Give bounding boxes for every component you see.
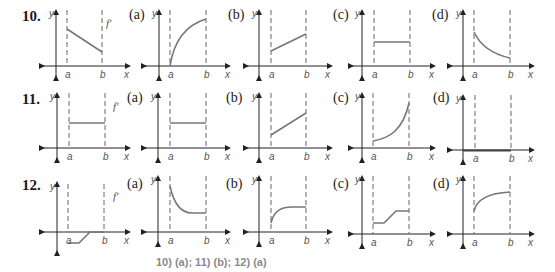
svg-text:x: x — [224, 235, 231, 246]
svg-text:x: x — [224, 151, 231, 162]
svg-text:x: x — [428, 237, 435, 248]
svg-text:a: a — [372, 69, 378, 80]
problem-number: 12. — [22, 177, 41, 193]
svg-text:(c): (c) — [333, 7, 349, 23]
svg-text:(b): (b) — [228, 7, 245, 23]
svg-text:(a): (a) — [127, 90, 143, 106]
svg-text:b: b — [304, 235, 310, 246]
svg-text:a: a — [67, 151, 73, 162]
svg-text:(a): (a) — [129, 7, 145, 23]
svg-text:(a): (a) — [127, 176, 143, 192]
svg-text:x: x — [324, 69, 331, 80]
svg-text:(c): (c) — [333, 90, 349, 106]
svg-text:y: y — [48, 8, 55, 19]
option-a: (a) y a b x — [129, 7, 231, 80]
svg-text:(d): (d) — [433, 90, 450, 106]
svg-text:a: a — [168, 69, 174, 80]
given-graph: y a b x f' — [42, 91, 130, 162]
f-prime-label: f' — [113, 100, 119, 112]
svg-text:a: a — [168, 151, 174, 162]
svg-text:x: x — [324, 235, 331, 246]
svg-text:b: b — [102, 235, 108, 246]
svg-text:x: x — [324, 151, 331, 162]
svg-text:y: y — [251, 174, 258, 185]
svg-text:(c): (c) — [333, 176, 349, 192]
option-b: (b) y a b x — [228, 7, 331, 80]
svg-text:y: y — [354, 8, 361, 19]
svg-text:x: x — [123, 235, 130, 246]
svg-text:y: y — [455, 93, 462, 104]
svg-text:b: b — [304, 69, 310, 80]
svg-text:b: b — [204, 69, 210, 80]
svg-text:(d): (d) — [433, 176, 450, 192]
problem-12: 12. y a b x f' (a) y a b x (b) — [22, 174, 534, 253]
svg-text:a: a — [269, 69, 275, 80]
svg-text:a: a — [65, 69, 71, 80]
svg-text:x: x — [527, 237, 534, 248]
answer-key: 10) (a); 11) (b); 12) (a) — [156, 256, 267, 268]
option-b: (b) y a b x — [226, 90, 331, 162]
option-a: (a) y a b x — [127, 90, 231, 162]
svg-text:a: a — [371, 237, 377, 248]
svg-text:b: b — [204, 235, 210, 246]
svg-text:y: y — [251, 91, 258, 102]
svg-text:a: a — [473, 153, 479, 164]
svg-text:a: a — [168, 235, 174, 246]
svg-text:a: a — [371, 151, 377, 162]
problem-10: 10. y a b x f' (a) y a b x — [22, 7, 534, 80]
svg-text:b: b — [508, 69, 514, 80]
svg-text:a: a — [66, 235, 72, 246]
svg-text:b: b — [204, 151, 210, 162]
svg-text:b: b — [509, 153, 515, 164]
svg-text:y: y — [49, 181, 56, 192]
svg-text:y: y — [151, 8, 158, 19]
option-c: (c) y a b x — [333, 7, 435, 80]
option-d: (d) y a b x — [432, 7, 534, 80]
option-c: (c) y a b x — [333, 174, 435, 248]
svg-text:y: y — [354, 91, 361, 102]
svg-text:a: a — [472, 69, 478, 80]
svg-text:x: x — [428, 151, 435, 162]
option-a: (a) y a b x — [127, 174, 231, 246]
svg-text:(b): (b) — [226, 176, 243, 192]
svg-text:b: b — [408, 69, 414, 80]
svg-text:a: a — [472, 237, 478, 248]
svg-text:y: y — [49, 91, 56, 102]
svg-text:a: a — [269, 151, 275, 162]
svg-text:b: b — [103, 151, 109, 162]
problem-figure: 10. y a b x f' (a) y a b x — [0, 0, 555, 272]
svg-text:x: x — [527, 69, 534, 80]
svg-text:b: b — [304, 151, 310, 162]
svg-text:a: a — [269, 235, 275, 246]
problem-number: 10. — [22, 8, 41, 24]
svg-text:(b): (b) — [226, 90, 243, 106]
option-d: (d) y a b x — [433, 174, 534, 248]
svg-text:b: b — [100, 69, 106, 80]
svg-text:y: y — [455, 8, 462, 19]
svg-text:(d): (d) — [432, 7, 449, 23]
option-d: (d) y a b x — [433, 90, 534, 164]
svg-text:x: x — [123, 69, 130, 80]
svg-text:b: b — [508, 237, 514, 248]
option-c: (c) y a b x — [333, 90, 435, 162]
f-prime-label: f' — [113, 190, 119, 202]
given-graph: y a b x f' — [42, 181, 130, 253]
svg-text:y: y — [455, 174, 462, 185]
svg-text:x: x — [527, 153, 534, 164]
svg-text:x: x — [224, 69, 231, 80]
svg-text:y: y — [354, 174, 361, 185]
svg-text:x: x — [123, 151, 130, 162]
svg-text:x: x — [428, 69, 435, 80]
problem-number: 11. — [22, 91, 40, 107]
svg-text:b: b — [407, 151, 413, 162]
problem-11: 11. y a b x f' (a) y a b x (b) — [22, 90, 534, 164]
given-graph: y a b x f' — [42, 8, 130, 80]
svg-text:b: b — [407, 237, 413, 248]
option-b: (b) y a b x — [226, 174, 331, 246]
f-prime-label: f' — [106, 17, 112, 29]
svg-text:y: y — [150, 174, 157, 185]
svg-text:y: y — [150, 91, 157, 102]
svg-text:y: y — [251, 8, 258, 19]
